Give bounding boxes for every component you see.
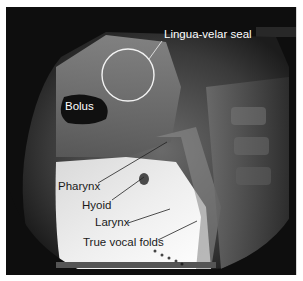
label-true-vocal-folds: True vocal folds [83, 237, 164, 249]
label-larynx: Larynx [95, 217, 130, 229]
larynx-leader [128, 209, 170, 223]
pharynx-leader [98, 142, 167, 183]
xray-image-frame: Lingua-velar seal Bolus Pharynx Hyoid La… [6, 7, 297, 275]
hyoid-leader [112, 177, 144, 200]
lingua-velar-seal-circle [102, 49, 154, 101]
label-bolus: Bolus [65, 101, 94, 113]
label-hyoid: Hyoid [82, 200, 111, 212]
label-lingua-velar-seal: Lingua-velar seal [164, 29, 252, 41]
lingua-velar-seal-leader [149, 41, 162, 59]
label-pharynx: Pharynx [58, 181, 100, 193]
annotation-overlay [6, 7, 296, 275]
